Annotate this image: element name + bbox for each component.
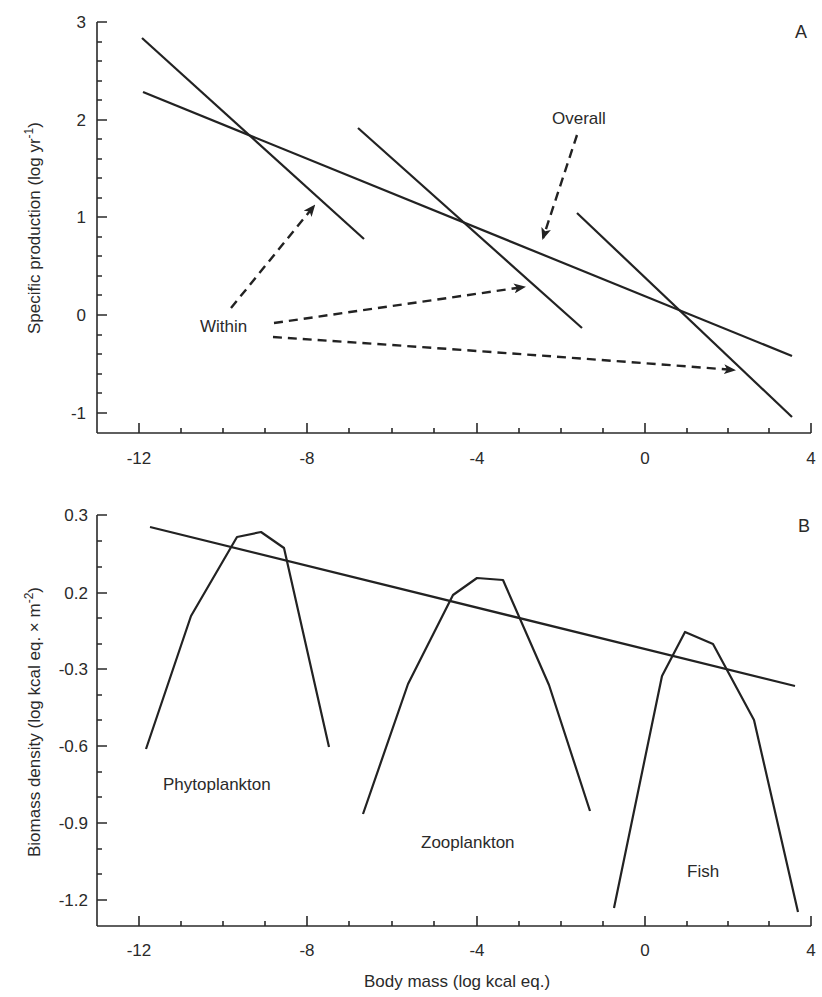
within-line-phytoplankton <box>142 38 364 239</box>
overall-arrow <box>543 135 577 238</box>
panel-a-ytick-label: 3 <box>77 13 86 32</box>
panel-a-y-ticks <box>97 22 107 413</box>
panel-b-y-ticks <box>97 515 107 900</box>
panel-b-xtick-label: -8 <box>299 941 314 960</box>
zooplankton-label: Zooplankton <box>421 833 515 852</box>
fish-label: Fish <box>687 862 719 881</box>
panel-a-xtick-label: 4 <box>806 449 815 468</box>
panel-a-y-axis-title: Specific production (log yr-1) <box>22 122 44 334</box>
panel-b-ytick-label: 0.3 <box>64 506 88 525</box>
within-arrow-2 <box>274 287 524 323</box>
within-label: Within <box>200 317 247 336</box>
panel-b-ytick-label: -0.9 <box>59 814 88 833</box>
panel-a-xtick-label: 0 <box>640 449 649 468</box>
figure: 3 2 1 0 -1 -12 -8 -4 0 4 Specific produc… <box>0 0 822 997</box>
panel-b-xtick-label: -4 <box>469 941 484 960</box>
panel-b-xtick-label: 4 <box>806 941 815 960</box>
panel-b-xtick-label: -12 <box>127 941 152 960</box>
biomass-regression-line <box>150 527 795 686</box>
panel-a: 3 2 1 0 -1 -12 -8 -4 0 4 Specific produc… <box>22 13 816 468</box>
panel-b-x-ticks <box>139 916 811 926</box>
panel-b-x-axis-title: Body mass (log kcal eq.) <box>364 972 550 991</box>
panel-a-ytick-label: -1 <box>71 404 86 423</box>
panel-a-x-ticks <box>139 423 811 433</box>
panel-b-xtick-label: 0 <box>640 941 649 960</box>
panel-a-ytick-label: 1 <box>77 208 86 227</box>
panel-a-xtick-label: -8 <box>299 449 314 468</box>
within-arrow-3 <box>273 337 734 370</box>
panel-b-ytick-label: -1.2 <box>59 891 88 910</box>
panel-a-xtick-label: -4 <box>469 449 484 468</box>
within-line-fish <box>577 213 792 417</box>
overall-label: Overall <box>552 109 606 128</box>
panel-a-ytick-label: 0 <box>77 306 86 325</box>
panel-b-ytick-label: -0.6 <box>59 737 88 756</box>
panel-b-ytick-label: 0.2 <box>64 584 88 603</box>
within-arrow-1 <box>231 206 314 308</box>
panel-a-label: A <box>795 22 807 42</box>
panel-a-ytick-label: 2 <box>77 111 86 130</box>
phytoplankton-label: Phytoplankton <box>163 775 271 794</box>
panel-b: 0.3 0.2 -0.3 -0.6 -0.9 -1.2 -12 -8 -4 0 … <box>22 506 816 991</box>
panel-b-label: B <box>798 516 810 536</box>
panel-b-ytick-label: -0.3 <box>59 660 88 679</box>
within-line-zooplankton <box>358 128 582 328</box>
panel-a-xtick-label: -12 <box>127 449 152 468</box>
panel-b-y-axis-title: Biomass density (log kcal eq. × m-2) <box>22 587 44 857</box>
zooplankton-dome <box>363 578 590 814</box>
